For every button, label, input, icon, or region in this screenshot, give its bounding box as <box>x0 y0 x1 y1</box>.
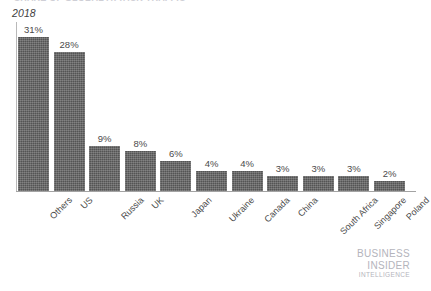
bar-rect <box>374 181 405 191</box>
business-insider-watermark: BUSINESS INSIDER INTELLIGENCE <box>357 248 410 279</box>
x-label-japan: Japan <box>189 195 213 219</box>
bar-value-label: 31% <box>12 24 55 35</box>
bar-rect <box>18 37 49 191</box>
x-label-us: US <box>79 195 95 211</box>
bar-rect <box>303 176 334 191</box>
x-label-south-africa: South Africa <box>339 195 380 236</box>
bar-value-label: 2% <box>368 168 411 179</box>
watermark-line-3: INTELLIGENCE <box>357 271 410 279</box>
clipped-chart-title: SHARE OF GLOBAL ATTACK TRAFFIC <box>14 0 186 1</box>
plot-area: 31%28%9%8%6%4%4%3%3%3%2% <box>16 22 416 192</box>
bar-rect <box>267 176 298 191</box>
bar-south-africa: 3% <box>303 176 334 191</box>
bar-us: 28% <box>54 52 85 191</box>
bar-rect <box>54 52 85 191</box>
bar-rect <box>125 151 156 191</box>
x-label-china: China <box>296 195 320 219</box>
y-axis-line <box>16 22 17 192</box>
x-label-ukraine: Ukraine <box>227 195 256 224</box>
x-label-poland: Poland <box>404 195 431 222</box>
bar-canada: 4% <box>232 171 263 191</box>
bar-rect <box>89 146 120 191</box>
bar-rect <box>160 161 191 191</box>
x-label-canada: Canada <box>262 195 291 224</box>
bar-value-label: 28% <box>48 39 91 50</box>
x-axis-category-labels: OthersUSRussiaUKJapanUkraineCanadaChinaS… <box>16 195 416 255</box>
bar-rect <box>232 171 263 191</box>
bar-rect <box>196 171 227 191</box>
x-axis-line <box>16 191 416 192</box>
bar-japan: 6% <box>160 161 191 191</box>
series-year-label: 2018 <box>12 7 36 19</box>
bar-poland: 2% <box>374 181 405 191</box>
bar-rect <box>338 176 369 191</box>
x-label-others: Others <box>47 195 73 221</box>
bar-others: 31% <box>18 37 49 191</box>
x-label-uk: UK <box>150 195 166 211</box>
watermark-line-2: INSIDER <box>357 260 410 272</box>
bar-singapore: 3% <box>338 176 369 191</box>
bar-russia: 9% <box>89 146 120 191</box>
x-label-russia: Russia <box>119 195 146 222</box>
bar-china: 3% <box>267 176 298 191</box>
watermark-line-1: BUSINESS <box>357 248 410 260</box>
bar-ukraine: 4% <box>196 171 227 191</box>
bar-series: 31%28%9%8%6%4%4%3%3%3%2% <box>18 22 416 191</box>
bar-uk: 8% <box>125 151 156 191</box>
